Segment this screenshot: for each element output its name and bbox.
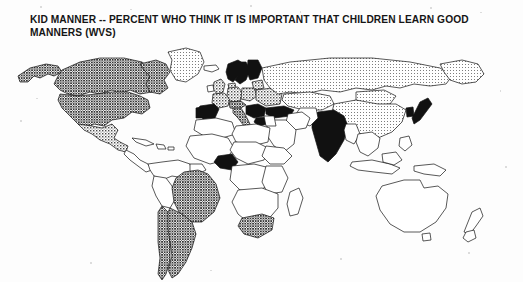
country-russia [262, 58, 452, 94]
page-title: KID MANNER -- PERCENT WHO THINK IT IS IM… [30, 14, 500, 39]
country-philippines [399, 136, 412, 151]
country-korea [406, 107, 414, 117]
country-alaska [18, 64, 62, 82]
country-mexico [78, 124, 128, 152]
country-south-africa [238, 214, 274, 238]
world-map-svg [0, 46, 523, 282]
country-united-states [58, 92, 150, 128]
country-indochina [356, 132, 380, 156]
choropleth-figure: KID MANNER -- PERCENT WHO THINK IT IS IM… [0, 0, 523, 282]
country-central-asia [282, 92, 334, 110]
title-line-2: MANNERS (WVS) [30, 27, 500, 40]
country-iceland [204, 65, 219, 72]
country-japan [412, 98, 432, 124]
world-map [0, 46, 523, 282]
country-balkans [246, 104, 266, 118]
country-tasmania [422, 233, 431, 241]
country-levant [264, 116, 276, 126]
country-greenland [168, 48, 204, 82]
title-line-1: KID MANNER -- PERCENT WHO THINK IT IS IM… [30, 14, 500, 27]
country-central-america [124, 150, 152, 172]
country-cuba [132, 138, 154, 146]
country-united-kingdom [213, 79, 225, 94]
country-portugal [196, 107, 202, 118]
country-poland [241, 88, 257, 101]
country-australia [376, 180, 448, 232]
country-ireland [207, 85, 214, 92]
country-madagascar [287, 188, 303, 216]
country-hispaniola [156, 144, 166, 149]
country-finland [247, 60, 262, 80]
country-germany [227, 87, 243, 102]
country-papua-new-guinea [414, 164, 446, 176]
country-puerto-rico [168, 147, 174, 150]
